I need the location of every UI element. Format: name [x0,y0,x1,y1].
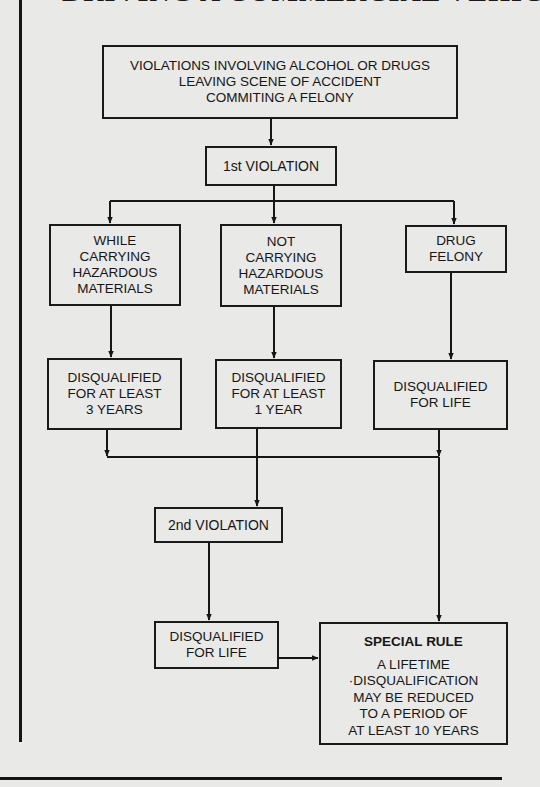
non-hazmat-box: NOT CARRYING HAZARDOUS MATERIALS [220,224,342,307]
dq-life-drug-line-2: FOR LIFE [410,395,471,411]
dq-3-years-box: DISQUALIFIED FOR AT LEAST 3 YEARS [47,358,182,430]
hazmat-line-2: CARRYING [79,249,150,265]
drug-felony-line-2: FELONY [429,249,483,265]
dq-1-year-box: DISQUALIFIED FOR AT LEAST 1 YEAR [215,359,342,429]
dq-life-drug-box: DISQUALIFIED FOR LIFE [373,360,508,430]
offense-leaving-scene: LEAVING SCENE OF ACCIDENT [179,74,381,90]
dq-3-years-line-1: DISQUALIFIED [68,370,162,386]
second-violation-label: 2nd VIOLATION [168,517,269,533]
special-rule-line-2: ·DISQUALIFICATION [349,673,479,690]
special-rule-heading: SPECIAL RULE [364,634,463,651]
offense-felony: COMMITING A FELONY [206,90,354,106]
special-rule-line-3: MAY BE REDUCED [353,690,473,707]
dq-3-years-line-3: 3 YEARS [86,402,143,418]
first-violation-box: 1st VIOLATION [205,146,337,186]
first-violation-label: 1st VIOLATION [223,158,319,174]
offenses-box: VIOLATIONS INVOLVING ALCOHOL OR DRUGS LE… [102,45,458,119]
non-hazmat-line-3: HAZARDOUS [239,266,324,282]
dq-1-year-line-1: DISQUALIFIED [232,370,326,386]
hazmat-box: WHILE CARRYING HAZARDOUS MATERIALS [49,224,181,306]
second-violation-box: 2nd VIOLATION [154,507,283,543]
hazmat-line-1: WHILE [94,233,137,249]
dq-life-second-line-2: FOR LIFE [186,645,247,661]
hazmat-line-3: HAZARDOUS [73,265,158,281]
special-rule-box: SPECIAL RULE A LIFETIME ·DISQUALIFICATIO… [319,622,508,745]
hazmat-line-4: MATERIALS [77,281,153,297]
special-rule-line-5: AT LEAST 10 YEARS [348,723,478,740]
dq-life-drug-line-1: DISQUALIFIED [394,379,488,395]
special-rule-line-4: TO A PERIOD OF [360,706,468,723]
drug-felony-line-1: DRUG [436,233,476,249]
non-hazmat-line-2: CARRYING [245,250,316,266]
dq-life-second-box: DISQUALIFIED FOR LIFE [154,621,279,669]
dq-life-second-line-1: DISQUALIFIED [170,629,264,645]
dq-1-year-line-2: FOR AT LEAST [231,386,325,402]
non-hazmat-line-4: MATERIALS [243,282,319,298]
dq-1-year-line-3: 1 YEAR [255,402,303,418]
dq-3-years-line-2: FOR AT LEAST [67,386,161,402]
special-rule-line-1: A LIFETIME [377,657,450,674]
drug-felony-box: DRUG FELONY [405,225,507,273]
non-hazmat-line-1: NOT [267,234,296,250]
offense-alcohol-drugs: VIOLATIONS INVOLVING ALCOHOL OR DRUGS [130,58,430,74]
